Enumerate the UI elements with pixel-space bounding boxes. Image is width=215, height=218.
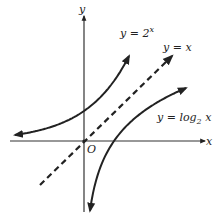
y-axis-label: y xyxy=(78,3,86,16)
x-axis-label: x xyxy=(206,135,213,148)
function-graph: y x O y = 2x y = x y = log2 x xyxy=(0,0,215,218)
curve-exponential xyxy=(15,56,129,135)
log-label-rhs: x xyxy=(202,111,212,124)
log-curve-label: y = log2 x xyxy=(156,111,212,126)
exp-label-base: y = 2 xyxy=(119,27,149,40)
log-label-base: y = log xyxy=(156,111,197,124)
exp-curve-label: y = 2x xyxy=(119,25,154,40)
origin-point xyxy=(82,139,85,142)
line-y-equals-x xyxy=(40,56,172,185)
curve-logarithm xyxy=(90,88,186,211)
origin-label: O xyxy=(87,143,96,156)
exp-label-sup: x xyxy=(149,25,154,34)
line-label: y = x xyxy=(162,41,192,54)
